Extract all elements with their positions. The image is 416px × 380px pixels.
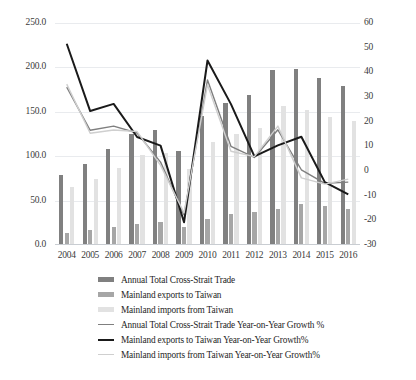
category-tick-2008: 2008 — [149, 250, 172, 260]
legend-item[interactable]: Mainland exports to Taiwan — [98, 287, 408, 302]
legend-item[interactable]: Annual Total Cross-Strait Trade — [98, 272, 408, 287]
category-tick-2012: 2012 — [243, 250, 266, 260]
line-series-layer — [55, 23, 360, 245]
category-tick-2013: 2013 — [266, 250, 289, 260]
category-tick-2006: 2006 — [102, 250, 125, 260]
right-axis-tick: 40 — [364, 66, 404, 76]
right-axis-tick: 50 — [364, 42, 404, 52]
right-axis-tick: 10 — [364, 140, 404, 150]
legend-swatch-icon — [98, 339, 114, 341]
category-tick-2010: 2010 — [196, 250, 219, 260]
line-series — [67, 44, 349, 223]
legend-label: Mainland imports from Taiwan — [121, 305, 233, 315]
right-axis-tick: 60 — [364, 17, 404, 27]
right-axis-tick: -10 — [364, 190, 404, 200]
legend-label: Mainland exports to Taiwan — [121, 290, 221, 300]
right-axis-tick: 30 — [364, 91, 404, 101]
category-tick-2015: 2015 — [313, 250, 336, 260]
legend-label: Annual Total Cross-Strait Trade Year-on-… — [121, 320, 324, 330]
cross-strait-trade-chart: 0.050.0100.0150.0200.0250.0 -30-20-10010… — [0, 0, 416, 380]
legend-swatch-icon — [98, 307, 114, 312]
category-tick-2011: 2011 — [219, 250, 242, 260]
left-axis-tick: 50.0 — [0, 195, 46, 205]
category-tick-2014: 2014 — [290, 250, 313, 260]
left-axis-tick: 200.0 — [0, 61, 46, 71]
plot-area — [55, 23, 360, 245]
category-tick-2007: 2007 — [125, 250, 148, 260]
left-axis-tick: 150.0 — [0, 106, 46, 116]
right-axis-tick: 0 — [364, 165, 404, 175]
line-series — [67, 84, 349, 213]
category-axis-line — [55, 244, 360, 245]
category-tick-2009: 2009 — [172, 250, 195, 260]
legend-label: Mainland exports to Taiwan Year-on-Year … — [121, 335, 308, 345]
category-tick-2004: 2004 — [55, 250, 78, 260]
left-axis-tick: 0.0 — [0, 239, 46, 249]
category-tick-2016: 2016 — [337, 250, 360, 260]
right-axis-tick: 20 — [364, 116, 404, 126]
legend-label: Annual Total Cross-Strait Trade — [121, 275, 235, 285]
legend-swatch-icon — [98, 292, 114, 297]
right-axis-tick: -30 — [364, 239, 404, 249]
left-axis-tick: 250.0 — [0, 17, 46, 27]
legend-swatch-icon — [98, 354, 114, 355]
left-axis-tick: 100.0 — [0, 150, 46, 160]
legend-item[interactable]: Mainland imports from Taiwan — [98, 302, 408, 317]
category-tick-2005: 2005 — [78, 250, 101, 260]
legend-item[interactable]: Mainland exports to Taiwan Year-on-Year … — [98, 332, 408, 347]
legend-swatch-icon — [98, 277, 114, 282]
legend-item[interactable]: Mainland imports from Taiwan Year-on-Yea… — [98, 347, 408, 362]
legend-item[interactable]: Annual Total Cross-Strait Trade Year-on-… — [98, 317, 408, 332]
chart-legend: Annual Total Cross-Strait TradeMainland … — [98, 272, 408, 362]
right-axis-tick: -20 — [364, 214, 404, 224]
legend-swatch-icon — [98, 324, 114, 325]
legend-label: Mainland imports from Taiwan Year-on-Yea… — [121, 350, 320, 360]
